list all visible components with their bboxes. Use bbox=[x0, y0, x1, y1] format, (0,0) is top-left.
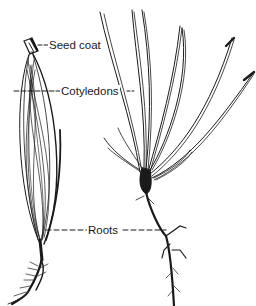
germinating-seed-figure bbox=[8, 38, 60, 304]
seed-coat-label: Seed coat bbox=[48, 39, 102, 51]
diagram-drawing bbox=[0, 0, 256, 306]
cotyledons-label: Cotyledons bbox=[60, 85, 120, 97]
roots-label: Roots bbox=[87, 224, 119, 236]
seedling-figure bbox=[100, 10, 254, 306]
seedling-diagram: Seed coat Cotyledons Roots bbox=[0, 0, 256, 306]
